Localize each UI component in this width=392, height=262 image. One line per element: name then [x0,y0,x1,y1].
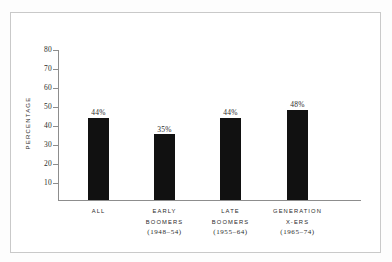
y-tick-label-40: 40 [6,122,52,130]
y-tick-label-10: 10 [6,179,52,187]
bar-value-all: 44% [78,108,119,117]
y-tick-mark-10 [53,183,59,184]
plot-area: PERCENTAGE 80 70 60 50 40 30 20 [0,0,392,262]
x-category-label-late-boomers: LATE BOOMERS (1955–64) [195,206,266,238]
y-tick-label-wrap-50: 50 [0,103,52,111]
figure-canvas: PERCENTAGE 80 70 60 50 40 30 20 [0,0,392,262]
y-tick-label-wrap-20: 20 [0,160,52,168]
x-category-line: GENERATION [261,206,334,217]
x-category-line: EARLY [129,206,200,217]
x-category-line: LATE [195,206,266,217]
bar-all [88,118,109,201]
x-category-line-years: (1955–64) [195,227,266,238]
x-category-label-generation-x-ers: GENERATION X-ERS (1965–74) [261,206,334,238]
x-category-line: X-ERS [261,217,334,228]
y-tick-mark-20 [53,164,59,165]
x-category-line: BOOMERS [195,217,266,228]
bar-value-early-boomers: 35% [144,125,185,134]
x-category-line-years: (1948–54) [129,227,200,238]
y-tick-label-wrap-60: 60 [0,84,52,92]
bar-generation-x-ers [287,110,308,200]
y-tick-label-30: 30 [6,141,52,149]
y-tick-label-wrap-40: 40 [0,122,52,130]
y-tick-mark-60 [53,88,59,89]
y-tick-label-80: 80 [6,46,52,54]
y-tick-mark-80 [53,50,59,51]
y-tick-label-wrap-70: 70 [0,65,52,73]
x-category-line-years: (1965–74) [261,227,334,238]
bar-early-boomers [154,134,175,200]
x-category-line: ALL [63,206,134,217]
y-tick-mark-50 [53,107,59,108]
bar-value-generation-x-ers: 48% [277,100,318,109]
y-tick-label-20: 20 [6,160,52,168]
x-category-label-early-boomers: EARLY BOOMERS (1948–54) [129,206,200,238]
y-tick-label-wrap-80: 80 [0,46,52,54]
y-tick-mark-40 [53,126,59,127]
x-category-label-all: ALL [63,206,134,217]
y-tick-label-70: 70 [6,65,52,73]
y-tick-label-wrap-30: 30 [0,141,52,149]
y-tick-label-60: 60 [6,84,52,92]
y-tick-label-wrap-10: 10 [0,179,52,187]
y-tick-label-50: 50 [6,103,52,111]
bar-value-late-boomers: 44% [210,108,251,117]
x-category-line: BOOMERS [129,217,200,228]
bar-late-boomers [220,118,241,201]
x-axis-line [58,200,361,201]
y-tick-mark-70 [53,69,59,70]
y-tick-mark-30 [53,145,59,146]
